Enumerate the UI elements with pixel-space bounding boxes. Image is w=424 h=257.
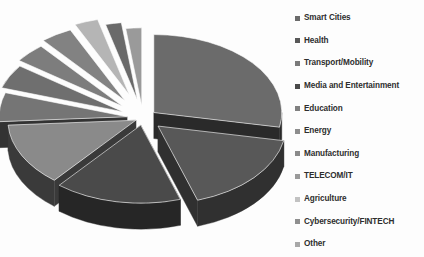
legend-item[interactable]: Transport/Mobility xyxy=(292,52,424,75)
legend-swatch-icon xyxy=(295,84,300,89)
legend-item[interactable]: Health xyxy=(292,30,424,53)
legend-swatch-icon xyxy=(295,242,300,247)
pie-slice-top-face[interactable] xyxy=(154,35,282,128)
legend-item-label: TELECOM/IT xyxy=(304,172,353,180)
legend-item-label: Health xyxy=(304,37,328,45)
legend-swatch-icon xyxy=(295,174,300,179)
legend-swatch-icon xyxy=(295,129,300,134)
pie-slice-group xyxy=(0,20,284,230)
legend-item[interactable]: Cybersecurity/FINTECH xyxy=(292,210,424,233)
pie-plot-area xyxy=(0,0,290,257)
legend-item[interactable]: Energy xyxy=(292,120,424,143)
legend-item[interactable]: TELECOM/IT xyxy=(292,165,424,188)
legend-item-label: Energy xyxy=(304,127,331,135)
legend-item-label: Agriculture xyxy=(304,195,347,203)
legend-swatch-icon xyxy=(295,151,300,156)
legend-item[interactable]: Agriculture xyxy=(292,188,424,211)
legend-item[interactable]: Education xyxy=(292,97,424,120)
legend-item-label: Cybersecurity/FINTECH xyxy=(304,218,394,226)
legend-item[interactable]: Smart Cities xyxy=(292,7,424,30)
legend-item-label: Smart Cities xyxy=(304,14,351,22)
legend-item-label: Manufacturing xyxy=(304,150,359,158)
legend-item-label: Media and Entertainment xyxy=(304,82,399,90)
pie-chart-figure: Smart CitiesHealthTransport/MobilityMedi… xyxy=(0,0,424,257)
legend-swatch-icon xyxy=(295,61,300,66)
pie-svg xyxy=(0,0,290,257)
legend-swatch-icon xyxy=(295,16,300,21)
legend-item[interactable]: Manufacturing xyxy=(292,143,424,166)
legend-swatch-icon xyxy=(295,219,300,224)
legend-item-label: Other xyxy=(304,240,325,248)
legend-item[interactable]: Media and Entertainment xyxy=(292,75,424,98)
legend-swatch-icon xyxy=(295,106,300,111)
legend-swatch-icon xyxy=(295,197,300,202)
legend-item-label: Education xyxy=(304,105,343,113)
chart-legend: Smart CitiesHealthTransport/MobilityMedi… xyxy=(292,0,424,257)
legend-swatch-icon xyxy=(295,38,300,43)
legend-item-label: Transport/Mobility xyxy=(304,59,373,67)
legend-item[interactable]: Other xyxy=(292,233,424,256)
